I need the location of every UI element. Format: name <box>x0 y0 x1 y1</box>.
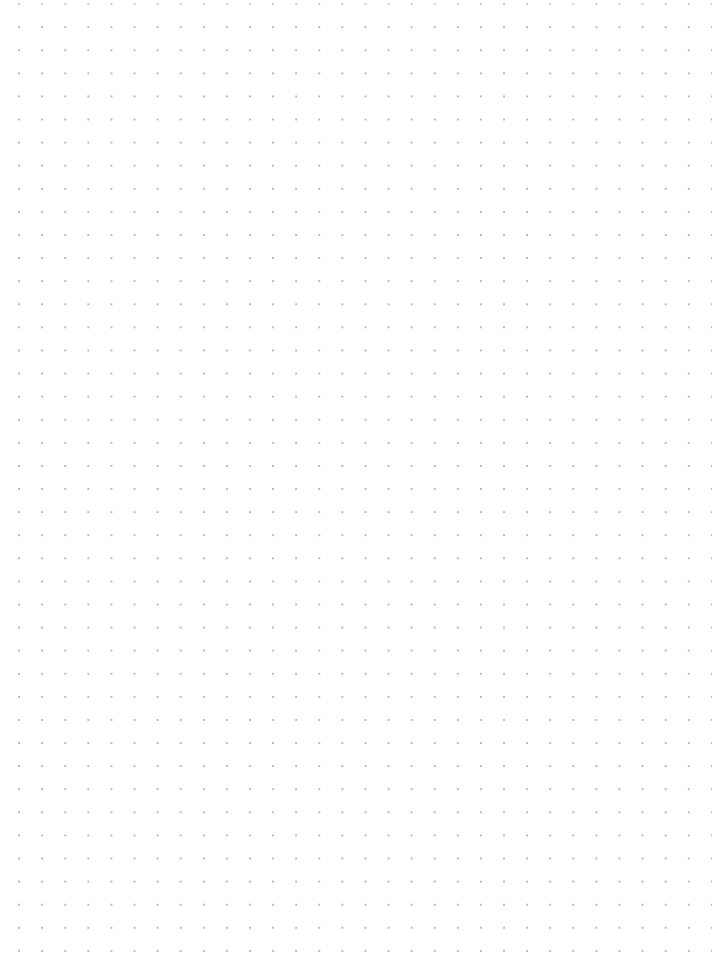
top-edge-shadow <box>0 0 712 10</box>
dot-grid-sheet <box>0 0 712 962</box>
